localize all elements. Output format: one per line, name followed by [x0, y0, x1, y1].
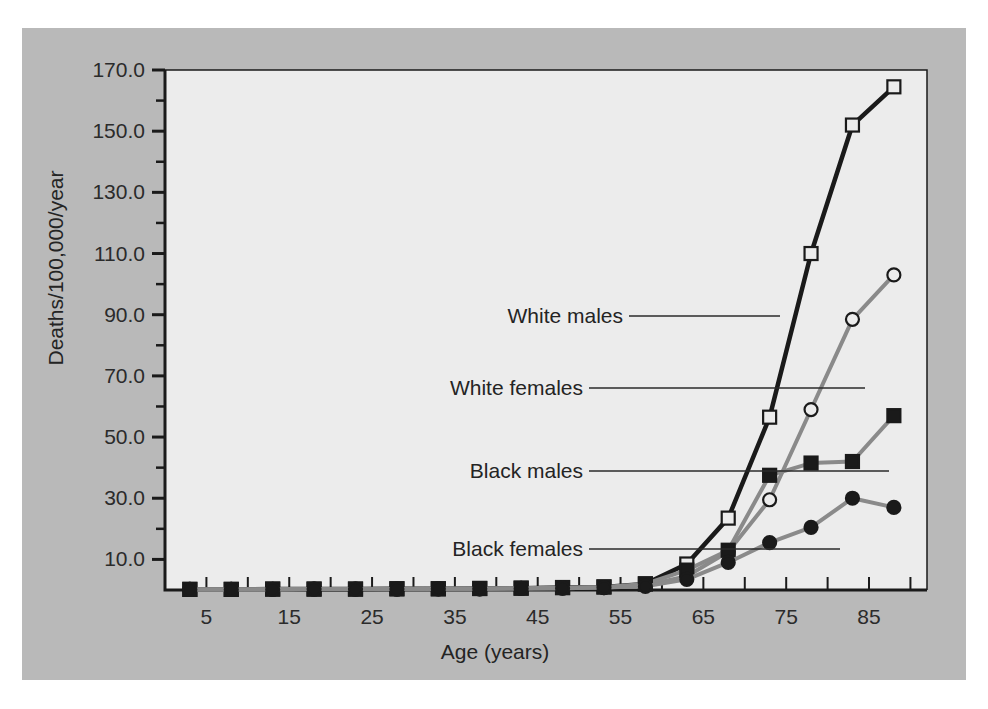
x-tick-label: 85 [839, 606, 899, 627]
series-callout-label: White males [423, 305, 623, 326]
series-callout-label: White females [383, 377, 583, 398]
x-tick-label: 5 [176, 606, 236, 627]
x-tick-label: 45 [508, 606, 568, 627]
axes-group [152, 70, 927, 590]
chart-canvas [22, 28, 966, 680]
y-axis-title: Deaths/100,000/year [44, 138, 68, 398]
series-callout-label: Black females [383, 538, 583, 559]
x-tick-label: 25 [342, 606, 402, 627]
x-axis-title: Age (years) [365, 640, 625, 664]
x-tick-label: 55 [591, 606, 651, 627]
y-tick-label: 30.0 [35, 487, 145, 508]
figure-panel: 10.030.050.070.090.0110.0130.0150.0170.0… [22, 28, 966, 680]
series-group [183, 80, 900, 596]
x-tick-label: 15 [259, 606, 319, 627]
x-tick-label: 75 [756, 606, 816, 627]
y-tick-label: 170.0 [35, 59, 145, 80]
series-callout-label: Black males [383, 460, 583, 481]
x-tick-label: 65 [673, 606, 733, 627]
x-tick-label: 35 [425, 606, 485, 627]
y-tick-label: 50.0 [35, 426, 145, 447]
annotation-leader-lines [589, 316, 889, 549]
y-tick-label: 10.0 [35, 548, 145, 569]
